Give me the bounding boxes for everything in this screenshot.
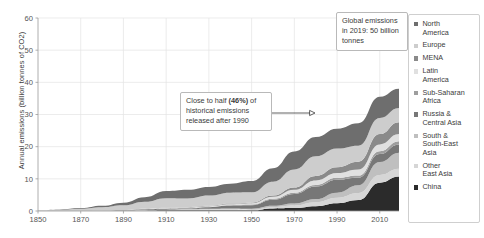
y-tick-label: 10 [25, 175, 33, 184]
legend-swatch-icon [414, 185, 418, 189]
annotation-line-2: historical emissions [186, 106, 266, 116]
legend-label: South &South-EastAsia [422, 132, 458, 158]
annotation-line-2: in 2019: 50 billion [342, 26, 402, 36]
x-tick-label: 1990 [329, 215, 346, 224]
x-tick-label: 1910 [158, 215, 175, 224]
x-tick-label: 1870 [72, 215, 89, 224]
legend-label: MENA [422, 54, 443, 63]
legend-item-china[interactable]: China [414, 183, 475, 192]
y-tick-labels: 0102030405060 [25, 14, 33, 216]
annotation-line-1: Global emissions [342, 16, 402, 26]
legend-item-north[interactable]: NorthAmerica [414, 20, 475, 37]
y-tick-label: 60 [25, 14, 33, 23]
legend-label: Russia &Central Asia [422, 110, 461, 127]
legend-item-south-[interactable]: South &South-EastAsia [414, 132, 475, 158]
annotation-text-post: of [248, 96, 256, 105]
x-tick-label: 1930 [200, 215, 217, 224]
legend-label: Sub-SaharanAfrica [422, 89, 464, 106]
legend-swatch-icon [414, 164, 418, 168]
legend-swatch-icon [414, 69, 418, 73]
chart-legend: NorthAmericaEuropeMENALatinAmericaSub-Sa… [408, 14, 480, 223]
annotation-line-1: Close to half (46%) of [186, 96, 266, 106]
annotation-global-emissions-2019: Global emissions in 2019: 50 billion ton… [336, 12, 408, 51]
y-tick-label: 50 [25, 46, 33, 55]
legend-swatch-icon [414, 134, 418, 138]
legend-item-latin[interactable]: LatinAmerica [414, 67, 475, 84]
x-tick-label: 2010 [371, 215, 388, 224]
legend-item-europe[interactable]: Europe [414, 41, 475, 50]
legend-swatch-icon [414, 91, 418, 95]
legend-swatch-icon [414, 22, 418, 26]
legend-label: China [422, 183, 441, 192]
y-tick-label: 40 [25, 78, 33, 87]
x-tick-label: 1950 [243, 215, 260, 224]
legend-label: Europe [422, 41, 445, 50]
y-tick-label: 30 [25, 110, 33, 119]
x-tick-label: 1850 [30, 215, 47, 224]
legend-swatch-icon [414, 56, 418, 60]
legend-item-sub-saharan[interactable]: Sub-SaharanAfrica [414, 89, 475, 106]
annotation-half-after-1990: Close to half (46%) of historical emissi… [180, 92, 272, 131]
legend-swatch-icon [414, 112, 418, 116]
legend-label: LatinAmerica [422, 67, 448, 84]
annotation-percent: (46%) [229, 96, 248, 105]
x-tick-label: 1970 [286, 215, 303, 224]
y-tick-label: 20 [25, 142, 33, 151]
legend-item-other[interactable]: OtherEast Asia [414, 162, 475, 179]
legend-item-mena[interactable]: MENA [414, 54, 475, 63]
emissions-chart-figure: Annual emissions (billion tonnes of CO2)… [0, 0, 484, 238]
legend-label: NorthAmerica [422, 20, 448, 37]
annotation-line-3: released after 1990 [186, 116, 266, 126]
x-tick-labels: 185018701890191019301950197019902010 [30, 215, 389, 224]
legend-label: OtherEast Asia [422, 162, 452, 179]
x-tick-label: 1890 [115, 215, 132, 224]
annotation-text-pre: Close to half [186, 96, 229, 105]
annotation-line-3: tonnes [342, 36, 402, 46]
legend-item-russia-[interactable]: Russia &Central Asia [414, 110, 475, 127]
legend-swatch-icon [414, 44, 418, 48]
